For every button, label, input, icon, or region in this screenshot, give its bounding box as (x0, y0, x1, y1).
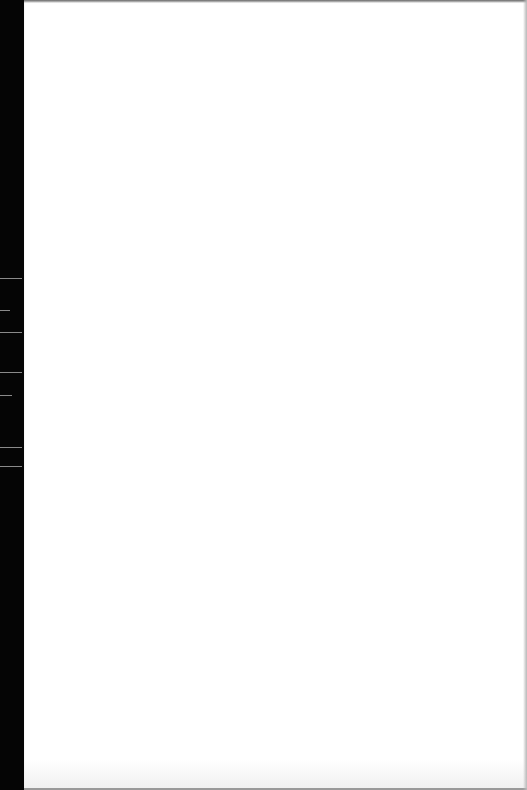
edge-mark (0, 310, 10, 311)
page-right-edge (523, 0, 527, 790)
page-bottom-shadow (24, 760, 527, 790)
page-top-shadow (24, 0, 527, 3)
edge-mark (0, 447, 22, 448)
edge-mark (0, 466, 22, 467)
scan-edge (0, 0, 24, 790)
edge-mark (0, 395, 12, 396)
edge-mark (0, 332, 22, 333)
blank-page (24, 0, 527, 790)
edge-mark (0, 372, 22, 373)
edge-mark (0, 278, 22, 279)
